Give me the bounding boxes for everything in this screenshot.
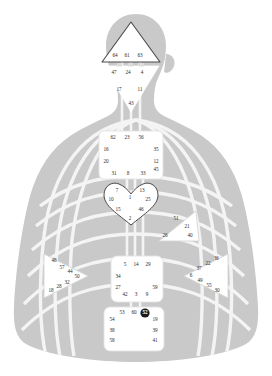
gate-37[interactable]: 37 — [196, 265, 202, 271]
gate-38[interactable]: 38 — [109, 327, 115, 333]
bodygraph-svg: 6461634724417114362235616352012453183371… — [0, 0, 272, 376]
gate-label: 16 — [103, 146, 109, 152]
gate-55[interactable]: 55 — [206, 282, 212, 288]
gate-label: 14 — [133, 261, 139, 267]
gate-label: 55 — [206, 282, 212, 288]
gate-label: 3 — [135, 291, 138, 297]
gate-40[interactable]: 40 — [187, 232, 193, 238]
gate-21[interactable]: 21 — [184, 223, 190, 229]
gate-53[interactable]: 53 — [119, 309, 125, 315]
gate-48[interactable]: 48 — [51, 257, 57, 263]
gate-32[interactable]: 32 — [64, 279, 70, 285]
gate-59[interactable]: 59 — [152, 284, 158, 290]
gate-54[interactable]: 54 — [109, 316, 115, 322]
gate-31[interactable]: 31 — [111, 170, 117, 176]
gate-label: 4 — [141, 69, 144, 75]
gate-8[interactable]: 8 — [127, 170, 130, 176]
gate-label: 32 — [64, 279, 70, 285]
gate-28[interactable]: 28 — [56, 283, 62, 289]
gate-label: 51 — [173, 215, 179, 221]
gate-18[interactable]: 18 — [48, 287, 54, 293]
gate-label: 2 — [129, 215, 132, 221]
gate-label: 33 — [140, 170, 146, 176]
gate-label: 10 — [108, 196, 114, 202]
gate-33[interactable]: 33 — [140, 170, 146, 176]
gate-19[interactable]: 19 — [152, 316, 158, 322]
gate-49[interactable]: 49 — [197, 277, 203, 283]
gate-64[interactable]: 64 — [112, 52, 118, 58]
gate-label: 44 — [67, 268, 73, 274]
gate-20[interactable]: 20 — [103, 158, 109, 164]
gate-7[interactable]: 7 — [116, 187, 119, 193]
gate-58[interactable]: 58 — [109, 337, 115, 343]
gate-9[interactable]: 9 — [146, 291, 149, 297]
gate-63[interactable]: 63 — [137, 52, 143, 58]
gate-44[interactable]: 44 — [67, 268, 73, 274]
gate-60[interactable]: 60 — [131, 309, 137, 315]
gate-label: 5 — [124, 261, 127, 267]
gate-35[interactable]: 35 — [153, 146, 159, 152]
gate-15[interactable]: 15 — [115, 206, 121, 212]
gate-24[interactable]: 24 — [125, 69, 131, 75]
gate-label: 6 — [190, 272, 193, 278]
gate-label: 26 — [162, 232, 168, 238]
gate-61[interactable]: 61 — [124, 52, 130, 58]
gate-25[interactable]: 25 — [145, 196, 151, 202]
gate-42[interactable]: 42 — [122, 291, 128, 297]
gate-5[interactable]: 5 — [124, 261, 127, 267]
gate-39[interactable]: 39 — [152, 327, 158, 333]
gate-label: 34 — [115, 273, 121, 279]
gate-label: 12 — [153, 158, 159, 164]
gate-label: 58 — [109, 337, 115, 343]
gate-30[interactable]: 30 — [214, 287, 220, 293]
gate-23[interactable]: 23 — [124, 134, 130, 140]
gate-10[interactable]: 10 — [108, 196, 114, 202]
gate-label: 41 — [152, 337, 158, 343]
gate-label: 42 — [122, 291, 128, 297]
gate-label: 11 — [138, 86, 143, 92]
gate-label: 57 — [59, 264, 65, 270]
gate-26[interactable]: 26 — [162, 232, 168, 238]
gate-56[interactable]: 56 — [138, 134, 144, 140]
gate-6[interactable]: 6 — [190, 272, 193, 278]
gate-57[interactable]: 57 — [59, 264, 65, 270]
gate-label: 52 — [142, 309, 148, 315]
gate-1[interactable]: 1 — [129, 194, 132, 200]
gate-41[interactable]: 41 — [152, 337, 158, 343]
gate-50[interactable]: 50 — [74, 273, 80, 279]
gate-label: 28 — [56, 283, 62, 289]
gate-17[interactable]: 17 — [116, 86, 122, 92]
gate-label: 60 — [131, 309, 137, 315]
gate-label: 19 — [152, 316, 158, 322]
gate-47[interactable]: 47 — [111, 69, 117, 75]
gate-36[interactable]: 36 — [213, 255, 219, 261]
gate-label: 39 — [152, 327, 158, 333]
gate-2[interactable]: 2 — [129, 215, 132, 221]
gate-29[interactable]: 29 — [145, 261, 151, 267]
gate-34[interactable]: 34 — [115, 273, 121, 279]
gate-label: 18 — [48, 287, 54, 293]
gate-16[interactable]: 16 — [103, 146, 109, 152]
gate-27[interactable]: 27 — [115, 284, 121, 290]
gate-43[interactable]: 43 — [128, 100, 134, 106]
gate-11[interactable]: 11 — [138, 86, 143, 92]
gate-label: 49 — [197, 277, 203, 283]
gate-46[interactable]: 46 — [138, 206, 144, 212]
gate-label: 8 — [127, 170, 130, 176]
gate-label: 45 — [153, 166, 159, 172]
gate-52[interactable]: 52 — [140, 308, 149, 317]
gate-3[interactable]: 3 — [135, 291, 138, 297]
gate-label: 25 — [145, 196, 151, 202]
gate-51[interactable]: 51 — [173, 215, 179, 221]
gate-label: 17 — [116, 86, 122, 92]
gate-4[interactable]: 4 — [141, 69, 144, 75]
gate-62[interactable]: 62 — [110, 134, 116, 140]
gate-45[interactable]: 45 — [153, 166, 159, 172]
gate-label: 61 — [124, 52, 130, 58]
gate-12[interactable]: 12 — [153, 158, 159, 164]
gate-22[interactable]: 22 — [205, 260, 211, 266]
gate-label: 1 — [129, 194, 132, 200]
gate-13[interactable]: 13 — [139, 187, 145, 193]
gate-14[interactable]: 14 — [133, 261, 139, 267]
gate-label: 23 — [124, 134, 130, 140]
